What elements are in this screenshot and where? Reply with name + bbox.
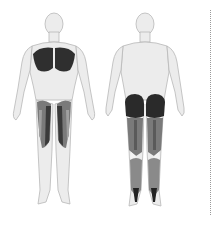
back-body-view: Back view: [100, 0, 208, 226]
quadriceps-highlight: [37, 100, 71, 148]
body-silhouette: [106, 13, 185, 206]
calves-highlight: [130, 158, 160, 202]
front-body-view: Front view: [0, 0, 108, 226]
back-body-figure: [100, 0, 208, 226]
hamstrings-highlight: [127, 118, 163, 156]
body-silhouette: [13, 13, 94, 204]
front-body-figure: [0, 0, 108, 226]
dotted-divider: [210, 10, 211, 215]
